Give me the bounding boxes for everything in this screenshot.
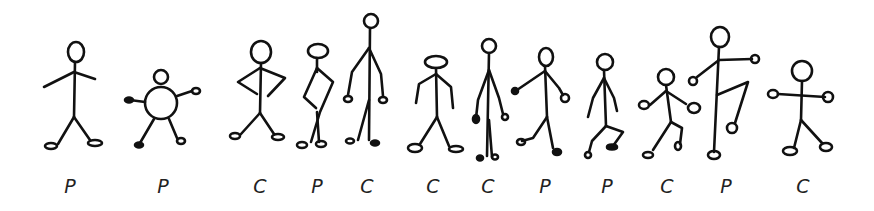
figure-label-9: P [592, 175, 622, 197]
stick-figure-2 [125, 70, 200, 148]
figure-label-8: P [530, 175, 560, 197]
stick-figure-illustration: P P C P C C C P P C P C [0, 0, 874, 211]
figure-label-11: P [711, 175, 741, 197]
stick-figure-1 [44, 42, 102, 149]
figure-label-12: C [788, 175, 818, 197]
stick-figure-10 [639, 69, 700, 158]
stick-figure-7 [473, 39, 508, 161]
stick-figure-9 [585, 54, 623, 158]
stick-figure-11 [689, 27, 759, 159]
stick-figure-12 [768, 61, 833, 155]
figure-label-2: P [148, 175, 178, 197]
figure-label-4: P [302, 175, 332, 197]
stick-figure-5 [344, 14, 387, 146]
stick-figure-4 [297, 44, 333, 148]
figure-label-6: C [418, 175, 448, 197]
stick-figure-6 [408, 56, 463, 152]
stick-figure-8 [512, 48, 569, 155]
stick-figure-3 [230, 41, 285, 140]
figure-label-10: C [652, 175, 682, 197]
figure-label-7: C [473, 175, 503, 197]
figure-label-5: C [352, 175, 382, 197]
figure-label-1: P [55, 175, 85, 197]
figure-label-3: C [245, 175, 275, 197]
